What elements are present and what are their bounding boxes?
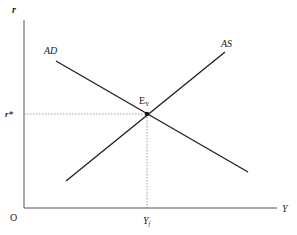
ad-curve xyxy=(56,61,248,172)
ad-as-diagram: r Y O AD AS EY r* Yf xyxy=(0,0,297,235)
x-axis-label: Y xyxy=(282,203,289,214)
ad-label: AD xyxy=(43,45,58,56)
as-curve xyxy=(66,52,225,181)
origin-label: O xyxy=(10,212,17,223)
equilibrium-label: EY xyxy=(139,95,150,107)
y-f-label: Yf xyxy=(143,215,152,227)
as-label: AS xyxy=(220,38,232,49)
r-star-label: r* xyxy=(5,109,14,119)
equilibrium-point xyxy=(145,112,149,116)
y-axis-label: r xyxy=(12,4,16,15)
